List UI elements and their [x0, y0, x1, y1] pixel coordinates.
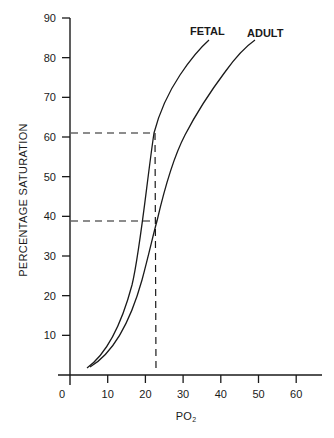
y-tick-label: 10 — [44, 329, 56, 341]
y-tick-label: 50 — [44, 171, 56, 183]
y-tick-label: 80 — [44, 52, 56, 64]
x-tick-label: 60 — [290, 388, 302, 400]
dashed-line-vertical — [155, 133, 156, 372]
adult-curve — [90, 40, 255, 367]
y-tick-label: 40 — [44, 210, 56, 222]
x-tick-label: 10 — [102, 388, 114, 400]
x-tick-label: 50 — [252, 388, 264, 400]
y-axis-title: PERCENTAGE SATURATION — [17, 123, 29, 277]
y-tick-label: 30 — [44, 250, 56, 262]
x-tick-label: 30 — [177, 388, 189, 400]
x-ticks: 0102030405060 — [59, 375, 302, 400]
x-axis-title-main: PO — [176, 410, 193, 422]
y-tick-label: 20 — [44, 290, 56, 302]
fetal-label: FETAL — [190, 25, 225, 37]
dashed-guides — [71, 133, 157, 372]
x-tick-label: 20 — [139, 388, 151, 400]
adult-label: ADULT — [247, 27, 284, 39]
x-axis-title: PO2 — [176, 410, 197, 423]
fetal-curve — [87, 40, 209, 368]
y-tick-label: 70 — [44, 91, 56, 103]
y-tick-label: 60 — [44, 131, 56, 143]
y-ticks: 102030405060708090 — [44, 12, 70, 341]
y-tick-label: 90 — [44, 12, 56, 24]
x-axis-title-subscript: 2 — [192, 416, 196, 423]
x-tick-label: 0 — [59, 388, 65, 400]
oxygen-dissociation-chart: 102030405060708090 0102030405060 FETAL A… — [0, 0, 334, 438]
axes — [58, 18, 322, 385]
x-tick-label: 40 — [215, 388, 227, 400]
